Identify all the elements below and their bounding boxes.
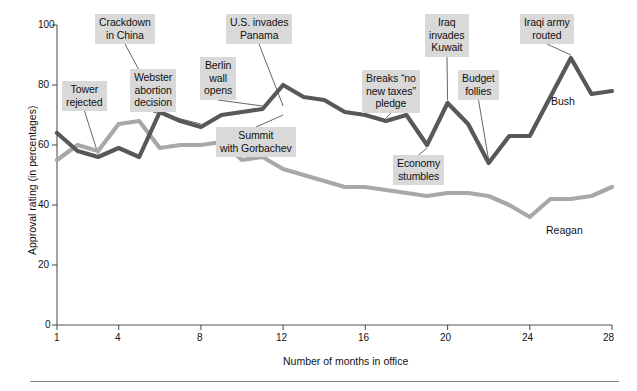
annotation-us-invades-panama: U.S. invades Panama (226, 14, 292, 44)
x-tick-label-12: 12 (276, 332, 287, 343)
y-tick-label-80: 80 (38, 79, 49, 90)
approval-rating-chart: 100 80 60 40 20 0 1 4 8 12 16 20 24 28 N… (0, 0, 637, 391)
y-tick-label-100: 100 (38, 19, 55, 30)
x-tick-label-4: 4 (115, 332, 121, 343)
annotation-breaks-no-new-taxes-pledge: Breaks “no new taxes” pledge (362, 70, 420, 113)
x-tick-label-28: 28 (603, 332, 614, 343)
y-tick-label-60: 60 (38, 139, 49, 150)
series-label-reagan: Reagan (546, 224, 583, 236)
annotation-iraq-invades-kuwait: Iraq invades Kuwait (425, 14, 469, 57)
y-axis-title: Approval rating (in percentages) (26, 106, 38, 255)
y-axis-ticks (52, 25, 57, 325)
y-tick-label-0: 0 (45, 319, 51, 330)
chart-plot-area (0, 0, 637, 391)
annotation-tower-rejected: Tower rejected (62, 81, 107, 111)
annotation-economy-stumbles: Economy stumbles (393, 155, 444, 185)
x-tick-label-20: 20 (440, 332, 451, 343)
annotation-crackdown-in-china: Crackdown in China (95, 14, 155, 44)
annotation-iraqi-army-routed: Iraqi army routed (520, 14, 574, 44)
x-tick-label-16: 16 (358, 332, 369, 343)
annotation-summit-with-gorbachev: Summit with Gorbachev (216, 127, 296, 157)
x-axis-title: Number of months in office (283, 355, 408, 367)
series-label-bush: Bush (551, 95, 575, 107)
annotation-budget-follies: Budget follies (458, 70, 499, 100)
x-tick-label-8: 8 (197, 332, 203, 343)
y-tick-label-40: 40 (38, 199, 49, 210)
x-tick-label-1: 1 (54, 332, 60, 343)
annotation-webster-abortion-decision: Webster abortion decision (130, 69, 176, 112)
x-tick-label-24: 24 (522, 332, 533, 343)
bottom-divider-rule (30, 381, 619, 382)
x-axis-ticks (57, 325, 612, 330)
y-tick-label-20: 20 (38, 259, 49, 270)
annotation-berlin-wall-opens: Berlin wall opens (200, 57, 236, 100)
